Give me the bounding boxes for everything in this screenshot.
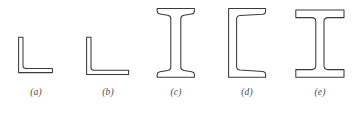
shape-b-unequal-leg-angle xyxy=(82,33,134,81)
caption-e: (e) xyxy=(292,87,348,97)
shape-d-svg xyxy=(224,5,270,83)
angle-outline-path xyxy=(87,37,129,74)
caption-a: (a) xyxy=(14,87,58,97)
shape-d-channel xyxy=(224,5,270,83)
s-beam-outline-path xyxy=(157,8,194,77)
shape-c-s-beam xyxy=(153,5,199,83)
caption-d: (d) xyxy=(224,87,270,97)
structural-sections-figure: (a) (b) (c) (d) (e) xyxy=(0,0,360,113)
angle-outline-path xyxy=(19,37,53,72)
shape-a-svg xyxy=(14,33,58,79)
shape-e-wide-flange-beam xyxy=(292,6,348,84)
shape-e-svg xyxy=(292,6,348,84)
caption-b: (b) xyxy=(82,87,134,97)
shape-c-svg xyxy=(153,5,199,83)
caption-c: (c) xyxy=(153,87,199,97)
wide-flange-outline-path xyxy=(296,10,344,77)
shape-a-equal-leg-angle xyxy=(14,33,58,79)
channel-outline-path xyxy=(229,8,266,77)
shape-b-svg xyxy=(82,33,134,81)
